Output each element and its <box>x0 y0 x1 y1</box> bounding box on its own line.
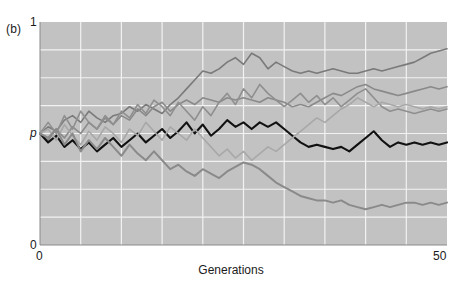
chart-plot-area <box>0 0 462 286</box>
x-axis-title: Generations <box>0 264 462 276</box>
figure-panel-b: (b) 1 p 0 0 50 Generations <box>0 0 462 286</box>
x-axis-tick-right: 50 <box>433 250 446 262</box>
x-axis-tick-left: 0 <box>36 250 43 262</box>
panel-label: (b) <box>6 23 21 35</box>
y-axis-tick-top: 1 <box>30 16 37 28</box>
y-axis-label-p: p <box>30 127 37 139</box>
